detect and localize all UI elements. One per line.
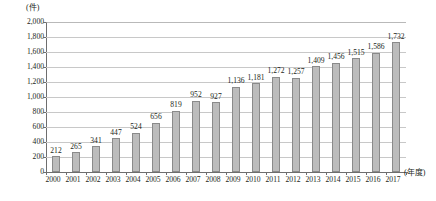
bar	[372, 53, 380, 172]
bar-value-label: 656	[150, 113, 161, 121]
y-axis-tick-label: 0	[4, 168, 44, 176]
bar	[92, 146, 100, 172]
bar-value-label: 1,456	[327, 53, 344, 61]
y-axis-tick-label: 1,600	[4, 48, 44, 56]
y-axis-tick-label: 200	[4, 153, 44, 161]
bar-group: 1,586	[366, 22, 386, 172]
bar-value-label: 524	[130, 123, 141, 131]
bar	[232, 87, 240, 172]
bar-value-label: 819	[170, 101, 181, 109]
bar-group: 952	[186, 22, 206, 172]
bar-group: 1,272	[266, 22, 286, 172]
bar-value-label: 952	[190, 91, 201, 99]
bar	[212, 102, 220, 172]
bar	[72, 152, 80, 172]
bar-value-label: 265	[70, 143, 81, 151]
bar	[152, 123, 160, 172]
bar	[392, 42, 400, 172]
bar	[52, 156, 60, 172]
bar-group: 1,409	[306, 22, 326, 172]
bar-value-label: 1,272	[267, 67, 284, 75]
bar	[112, 138, 120, 172]
bar-value-label: 341	[90, 137, 101, 145]
bar-group: 1,181	[246, 22, 266, 172]
bar-chart: (件) 02004006008001,0001,2001,4001,6001,8…	[0, 0, 436, 201]
bar-value-label: 1,136	[227, 77, 244, 85]
bar-value-label: 1,257	[287, 68, 304, 76]
bar-value-label: 1,409	[307, 57, 324, 65]
y-axis-tick-label: 600	[4, 123, 44, 131]
y-axis-tick-label: 2,000	[4, 18, 44, 26]
bar-group: 1,136	[226, 22, 246, 172]
x-axis-labels: 2000200120022003200420052006200720082009…	[46, 176, 406, 188]
bar	[172, 111, 180, 172]
bar-group: 819	[166, 22, 186, 172]
bar	[272, 77, 280, 172]
bar-group: 1,456	[326, 22, 346, 172]
bar-group: 927	[206, 22, 226, 172]
bar-value-label: 1,586	[367, 43, 384, 51]
bar	[132, 133, 140, 172]
bar	[332, 63, 340, 172]
bar-group: 1,257	[286, 22, 306, 172]
bar-group: 1,515	[346, 22, 366, 172]
y-axis-tick-label: 1,200	[4, 78, 44, 86]
x-axis-tick-label: 2017	[380, 176, 406, 184]
bar-group: 524	[126, 22, 146, 172]
bar	[312, 66, 320, 172]
bar-group: 212	[46, 22, 66, 172]
y-axis-tick-label: 1,400	[4, 63, 44, 71]
bar	[192, 101, 200, 172]
y-axis-tick-label: 800	[4, 108, 44, 116]
y-axis-tick-label: 1,800	[4, 33, 44, 41]
bar-group: 656	[146, 22, 166, 172]
bar-value-label: 1,181	[247, 74, 264, 82]
bar-value-label: 212	[50, 147, 61, 155]
y-axis-tick-label: 400	[4, 138, 44, 146]
bar-group: 1,732	[386, 22, 406, 172]
bar-value-label: 1,732	[387, 33, 404, 41]
bar-group: 265	[66, 22, 86, 172]
bar-value-label: 447	[110, 129, 121, 137]
x-axis-unit-label: (年度)	[404, 166, 425, 177]
bar	[352, 58, 360, 172]
x-axis-line	[46, 172, 408, 173]
bar-group: 447	[106, 22, 126, 172]
bar	[292, 78, 300, 172]
y-axis-tick-label: 1,000	[4, 93, 44, 101]
bar-value-label: 1,515	[347, 49, 364, 57]
bar-series: 2122653414475246568199529271,1361,1811,2…	[46, 22, 406, 172]
bar-value-label: 927	[210, 93, 221, 101]
bar-group: 341	[86, 22, 106, 172]
bar	[252, 83, 260, 172]
y-axis-unit-label: (件)	[26, 1, 39, 12]
